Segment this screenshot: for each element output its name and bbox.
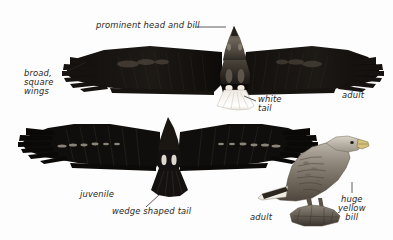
label-prominent-head-and-bill: prominent head and bill <box>96 21 200 30</box>
juvenile-eagle-flight-figure <box>18 117 318 197</box>
juvenile-left-wing <box>18 124 160 171</box>
adult-right-wing <box>240 46 384 95</box>
adult-body <box>220 60 250 93</box>
label-broad-square-wings: broad, square wings <box>24 69 54 97</box>
label-wedge-shaped-tail: wedge shaped tail <box>112 207 191 216</box>
perch-rock <box>290 205 340 226</box>
label-huge-yellow-bill: huge yellow bill <box>338 195 366 223</box>
juvenile-wedge-tail <box>151 168 188 197</box>
adult-head-and-bill <box>223 26 246 64</box>
label-adult-perched: adult <box>250 213 272 222</box>
juvenile-head-and-body <box>156 117 182 172</box>
adult-left-wing <box>62 46 222 95</box>
eagle-identification-plate: prominent head and bill broad, square wi… <box>0 0 393 240</box>
adult-eagle-flight-figure <box>62 26 384 110</box>
label-adult-flight: adult <box>342 91 364 100</box>
plate-artwork <box>0 0 393 240</box>
label-juvenile-flight: juvenile <box>80 190 114 199</box>
label-white-tail: white tail <box>258 95 282 113</box>
